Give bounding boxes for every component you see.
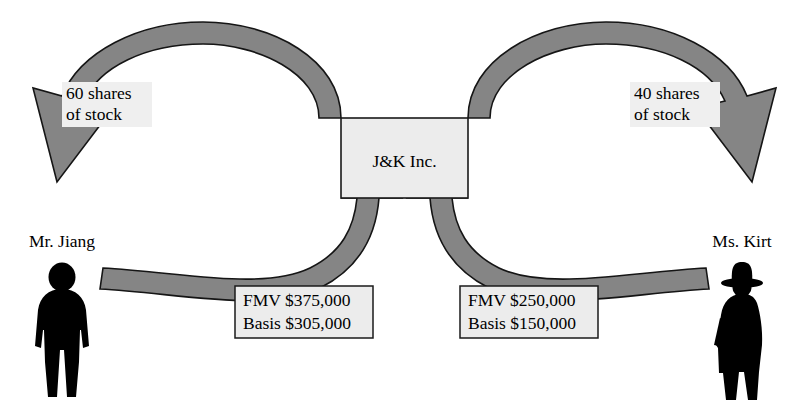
stock-label-jiang-line1: 60 shares <box>66 83 132 103</box>
property-callout-jiang-fmv: FMV $375,000 <box>243 290 351 310</box>
property-callout-kirt-fmv: FMV $250,000 <box>468 290 576 310</box>
property-callout-kirt-basis: Basis $150,000 <box>468 313 576 333</box>
property-callout-kirt: FMV $250,000 Basis $150,000 <box>460 286 598 338</box>
stock-label-jiang-line2: of stock <box>66 104 122 124</box>
diagram-canvas: J&K Inc. Mr. Jiang Ms. Kirt 60 shares of… <box>0 0 803 420</box>
flow-band-stock-to-kirt <box>468 22 776 182</box>
stock-label-kirt-line2: of stock <box>634 104 690 124</box>
formation-diagram: J&K Inc. Mr. Jiang Ms. Kirt 60 shares of… <box>0 0 803 420</box>
stock-label-kirt: 40 shares of stock <box>630 82 720 127</box>
entity-label-jk-inc: J&K Inc. <box>372 151 436 171</box>
property-callout-jiang-basis: Basis $305,000 <box>243 313 351 333</box>
female-silhouette-icon <box>714 262 763 400</box>
property-callout-jiang: FMV $375,000 Basis $305,000 <box>235 286 373 338</box>
male-silhouette-icon <box>35 263 89 398</box>
stock-label-kirt-line1: 40 shares <box>634 83 700 103</box>
person-name-jiang: Mr. Jiang <box>29 231 95 251</box>
person-name-kirt: Ms. Kirt <box>712 231 771 251</box>
stock-label-jiang: 60 shares of stock <box>62 82 152 127</box>
